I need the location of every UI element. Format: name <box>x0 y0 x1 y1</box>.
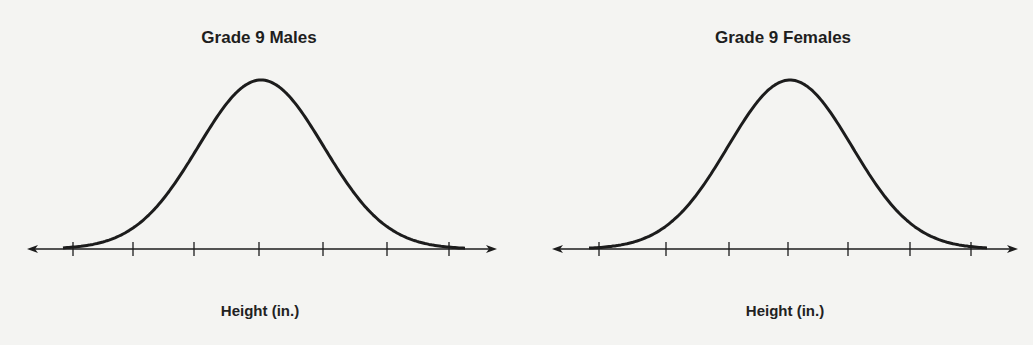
males-normal-curve-plot <box>0 0 520 345</box>
females-normal-curve-plot <box>520 0 1033 345</box>
normal-distribution-curve <box>63 80 465 248</box>
males-chart-panel: Grade 9 Males Height (in.) <box>0 0 520 345</box>
x-axis-label: Height (in.) <box>221 302 299 319</box>
females-chart-panel: Grade 9 Females Height (in.) <box>520 0 1033 345</box>
x-axis-label: Height (in.) <box>746 302 824 319</box>
normal-distribution-curve <box>589 80 987 248</box>
